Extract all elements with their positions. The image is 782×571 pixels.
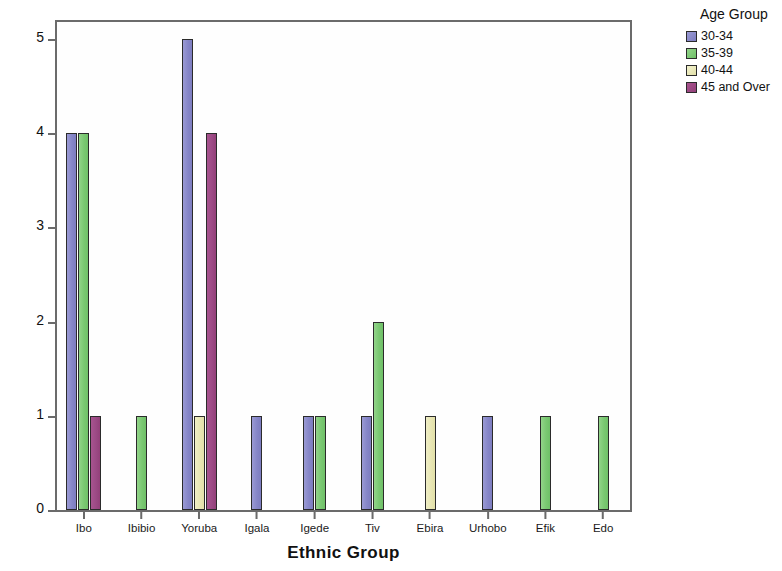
x-tick-mark bbox=[256, 512, 258, 519]
legend-item[interactable]: 35-39 bbox=[686, 46, 782, 60]
bar-cluster bbox=[228, 20, 286, 510]
y-tick-label: 1 bbox=[14, 406, 44, 422]
x-axis-tick: Ebira bbox=[417, 512, 444, 534]
y-tick-mark bbox=[48, 133, 55, 135]
y-tick-label: 3 bbox=[14, 217, 44, 233]
y-tick-mark bbox=[48, 416, 55, 418]
x-tick-mark bbox=[371, 512, 373, 519]
legend-items: 30-3435-3940-4445 and Over bbox=[686, 29, 782, 94]
legend-label: 35-39 bbox=[701, 46, 733, 60]
bar bbox=[251, 416, 262, 510]
y-tick-label: 0 bbox=[14, 500, 44, 516]
legend-swatch-icon bbox=[686, 48, 697, 59]
y-tick-mark bbox=[48, 322, 55, 324]
bar bbox=[540, 416, 551, 510]
x-tick-label: Edo bbox=[593, 522, 613, 534]
bar bbox=[78, 133, 89, 510]
x-axis-tick: Ibibio bbox=[128, 512, 156, 534]
legend-item[interactable]: 40-44 bbox=[686, 63, 782, 77]
bar bbox=[598, 416, 609, 510]
y-axis-tick: 0 bbox=[0, 510, 55, 511]
bar bbox=[361, 416, 372, 510]
bar bbox=[373, 322, 384, 510]
x-tick-mark bbox=[314, 512, 316, 519]
x-tick-mark bbox=[83, 512, 85, 519]
x-tick-mark bbox=[429, 512, 431, 519]
x-tick-label: Urhobo bbox=[469, 522, 507, 534]
y-axis-tick: 4 bbox=[0, 133, 55, 134]
x-tick-label: Efik bbox=[536, 522, 555, 534]
x-axis-tick: Yoruba bbox=[181, 512, 217, 534]
bar bbox=[482, 416, 493, 510]
x-axis-tick: Tiv bbox=[365, 512, 380, 534]
legend-swatch-icon bbox=[686, 65, 697, 76]
x-tick-mark bbox=[544, 512, 546, 519]
legend-item[interactable]: 45 and Over bbox=[686, 80, 782, 94]
x-tick-mark bbox=[487, 512, 489, 519]
bars-layer bbox=[55, 20, 632, 510]
bar bbox=[425, 416, 436, 510]
legend: Age Group 30-3435-3940-4445 and Over bbox=[686, 6, 782, 97]
x-axis-tick: Igala bbox=[244, 512, 269, 534]
y-tick-mark bbox=[48, 227, 55, 229]
x-tick-label: Tiv bbox=[365, 522, 380, 534]
bar-cluster bbox=[517, 20, 575, 510]
bar-cluster bbox=[344, 20, 402, 510]
x-axis-tick: Edo bbox=[593, 512, 613, 534]
y-tick-label: 5 bbox=[14, 29, 44, 45]
bar-cluster bbox=[55, 20, 113, 510]
y-tick-mark bbox=[48, 39, 55, 41]
x-tick-label: Yoruba bbox=[181, 522, 217, 534]
bar-cluster bbox=[574, 20, 632, 510]
legend-label: 40-44 bbox=[701, 63, 733, 77]
y-tick-label: 2 bbox=[14, 312, 44, 328]
bar bbox=[136, 416, 147, 510]
y-axis-tick: 2 bbox=[0, 322, 55, 323]
bar-cluster bbox=[401, 20, 459, 510]
bar bbox=[194, 416, 205, 510]
bar-cluster bbox=[113, 20, 171, 510]
bar-chart: Count 012345 IboIbibioYorubaIgalaIgedeTi… bbox=[0, 0, 782, 571]
x-tick-label: Ebira bbox=[417, 522, 444, 534]
bar bbox=[90, 416, 101, 510]
x-axis-tick: Efik bbox=[536, 512, 555, 534]
bar-cluster bbox=[459, 20, 517, 510]
x-tick-label: Igala bbox=[244, 522, 269, 534]
x-tick-mark bbox=[198, 512, 200, 519]
x-axis-tick: Igede bbox=[300, 512, 329, 534]
y-axis-tick: 3 bbox=[0, 227, 55, 228]
bar bbox=[206, 133, 217, 510]
x-axis-title: Ethnic Group bbox=[55, 543, 632, 563]
bar bbox=[66, 133, 77, 510]
legend-label: 30-34 bbox=[701, 29, 733, 43]
legend-label: 45 and Over bbox=[701, 80, 770, 94]
x-axis-tick: Urhobo bbox=[469, 512, 507, 534]
bar bbox=[315, 416, 326, 510]
x-tick-label: Igede bbox=[300, 522, 329, 534]
x-axis-tick: Ibo bbox=[76, 512, 92, 534]
y-tick-label: 4 bbox=[14, 123, 44, 139]
legend-swatch-icon bbox=[686, 31, 697, 42]
x-tick-label: Ibo bbox=[76, 522, 92, 534]
y-tick-mark bbox=[48, 510, 55, 512]
legend-item[interactable]: 30-34 bbox=[686, 29, 782, 43]
bar-cluster bbox=[286, 20, 344, 510]
y-axis-tick: 5 bbox=[0, 39, 55, 40]
y-axis-tick: 1 bbox=[0, 416, 55, 417]
legend-swatch-icon bbox=[686, 82, 697, 93]
bar bbox=[182, 39, 193, 510]
x-tick-mark bbox=[141, 512, 143, 519]
bar bbox=[303, 416, 314, 510]
x-tick-label: Ibibio bbox=[128, 522, 156, 534]
bar-cluster bbox=[170, 20, 228, 510]
legend-title: Age Group bbox=[700, 6, 782, 22]
x-tick-mark bbox=[602, 512, 604, 519]
